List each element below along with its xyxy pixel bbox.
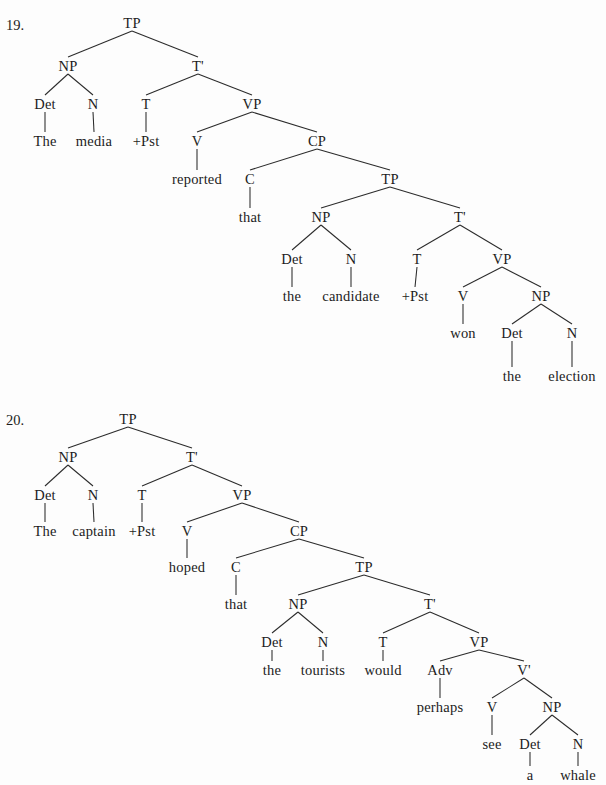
tree-node-category: TP [355,560,372,575]
tree-node-category: Det [501,326,523,341]
tree-branch [68,427,128,448]
tree-branch [321,187,390,208]
tree-branch [479,650,524,661]
tree-leaf-word: reported [172,172,222,187]
tree-branch [390,187,460,208]
tree-node-category: VP [493,252,512,267]
tree-node-category: NP [532,289,551,304]
tree-branch [142,465,192,486]
tree-leaf-word: whale [560,768,596,783]
tree-node-category: T' [192,59,204,74]
tree-branch [192,465,242,486]
tree-node-category: N [573,737,584,752]
tree-node-category: NP [543,700,562,715]
tree-node-category: N [88,97,99,112]
tree-leaf-word: the [283,289,301,304]
tree-branch [524,678,552,698]
tree-leaf-word: perhaps [417,700,464,715]
tree-leaf-word: that [239,210,262,225]
tree-branch [197,112,252,132]
tree-node-category: V [182,524,193,539]
tree-branch [417,225,460,250]
tree-node-category: N [318,635,329,650]
tree-leaf-word: media [76,134,112,149]
tree-branch [128,427,192,448]
tree-branch [198,74,252,95]
tree-node-category: C [231,560,241,575]
tree-node-category: V [192,134,203,149]
tree-leaf-word: candidate [322,289,379,304]
tree-branch [415,267,417,287]
tree-node-category: V' [517,663,530,678]
tree-node-category: T [137,488,146,503]
tree-branch [187,503,242,522]
tree-node-category: TP [123,16,140,31]
exercise-number: 20. [6,413,24,428]
tree-node-category: V [487,700,498,715]
tree-node-category: NP [312,210,331,225]
tree-branch [93,112,94,132]
tree-branch [272,612,298,633]
tree-branch [250,149,317,170]
tree-branch [298,575,364,595]
tree-branch [68,465,93,486]
tree-leaf-word: +Pst [133,134,160,149]
tree-node-category: TP [119,412,136,427]
tree-node-category: N [346,252,357,267]
tree-branch [541,304,572,324]
tree-branch [93,503,94,522]
worksheet-page: 19.TPNPT'DetNTVPThemedia+PstVCPreportedC… [0,0,606,785]
tree-branch [321,225,351,250]
tree-leaf-word: The [33,524,56,539]
tree-node-category: VP [243,97,262,112]
tree-node-category: Det [261,635,283,650]
tree-branch [492,678,524,698]
tree-leaf-word: the [263,663,281,678]
tree-node-category: T' [454,210,466,225]
tree-leaf-word: a [527,768,534,783]
tree-node-category: Det [281,252,303,267]
tree-node-category: V [458,289,469,304]
tree-branch [45,465,68,486]
tree-branch [236,539,299,558]
tree-node-category: Det [34,488,56,503]
tree-node-category: NP [289,597,308,612]
tree-branch [132,31,198,57]
exercise-number: 19. [6,18,24,33]
tree-node-category: VP [470,635,489,650]
tree-node-category: T' [424,597,436,612]
tree-branch [502,267,541,287]
tree-branch [68,74,93,95]
tree-leaf-word: tourists [301,663,345,678]
tree-branch [45,74,68,95]
tree-node-category: CP [290,524,308,539]
tree-node-category: T [378,635,387,650]
tree-node-category: C [245,172,255,187]
tree-branch [512,304,541,324]
tree-node-category: Det [34,97,56,112]
tree-branch [463,267,502,287]
tree-leaf-word: +Pst [402,289,429,304]
tree-branch [460,225,502,250]
tree-branch [252,112,317,132]
tree-branch [317,149,390,170]
tree-leaf-word: won [450,326,476,341]
tree-leaf-word: election [548,369,596,384]
tree-leaf-word: +Pst [129,524,156,539]
tree-branch [383,612,430,633]
tree-leaf-word: the [503,369,521,384]
tree-node-category: Det [519,737,541,752]
tree-branch [242,503,299,522]
tree-node-category: T [412,252,421,267]
tree-leaf-word: would [364,663,401,678]
tree-branch [292,225,321,250]
tree-leaf-word: captain [72,524,115,539]
tree-branch [68,31,132,57]
tree-branch [299,539,364,558]
tree-branch [440,650,479,661]
tree-branch [552,715,578,735]
tree-node-category: T [141,97,150,112]
tree-node-category: Adv [427,663,453,678]
tree-leaf-word: see [482,737,501,752]
tree-node-category: T' [186,450,198,465]
